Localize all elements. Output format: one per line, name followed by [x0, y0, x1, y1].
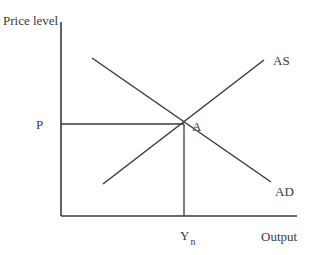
natural-output-label: Yn [180, 229, 194, 242]
diagram-canvas [0, 0, 310, 255]
x-axis-label: Output [261, 230, 297, 243]
ad-curve-label: AD [275, 185, 294, 198]
equilibrium-point-label: A [192, 120, 201, 133]
y-axis-label: Price level [3, 14, 58, 27]
natural-output-main: Y [180, 228, 189, 243]
price-label: P [36, 118, 43, 131]
ad-curve [92, 58, 271, 182]
natural-output-subscript: n [190, 236, 195, 247]
as-ad-diagram: Price level P A AS AD Yn Output [0, 0, 310, 255]
as-curve-label: AS [273, 54, 290, 67]
